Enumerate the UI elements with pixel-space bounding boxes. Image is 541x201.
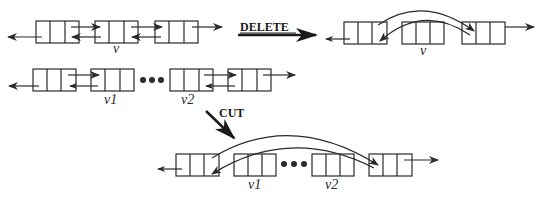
list-node xyxy=(228,69,271,91)
list-node-v1-detached xyxy=(234,154,276,176)
node-label-v: v xyxy=(420,43,427,58)
list-node xyxy=(369,154,412,176)
list-node-v xyxy=(95,21,138,43)
node-label-v1: v1 xyxy=(248,177,261,192)
node-label-v2: v2 xyxy=(325,177,338,192)
node-label-v: v xyxy=(113,41,120,56)
node-label-v1: v1 xyxy=(104,92,117,107)
row1-before-delete xyxy=(8,21,222,43)
row3-after-cut xyxy=(158,136,438,176)
list-node-v-detached xyxy=(402,22,444,44)
linked-list-diagram: v v v1 v2 v1 v2 DELETE CUT xyxy=(0,0,541,201)
ellipsis-dots xyxy=(140,77,164,83)
ellipsis-dots xyxy=(281,161,307,167)
list-node xyxy=(155,21,198,43)
list-node xyxy=(33,69,76,91)
list-node xyxy=(36,21,79,43)
cut-label: CUT xyxy=(219,106,244,120)
delete-label: DELETE xyxy=(240,20,289,34)
list-node-v2 xyxy=(170,69,213,91)
list-node-v1 xyxy=(91,69,134,91)
list-node xyxy=(462,22,505,44)
node-label-v2: v2 xyxy=(181,92,194,107)
bypass-prev-arrow xyxy=(212,148,374,174)
row1-after-delete xyxy=(326,11,534,44)
bypass-prev-arrow xyxy=(380,20,470,41)
